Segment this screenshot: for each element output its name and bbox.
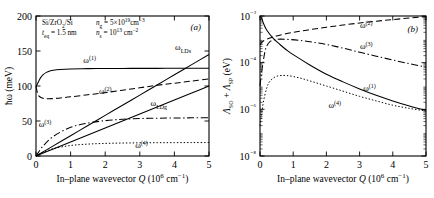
- x-tick-label: 2: [324, 159, 329, 170]
- x-tick-label: 5: [207, 159, 212, 170]
- y-tick-label: 50: [22, 116, 32, 127]
- y-tick-label: 10⁻²: [240, 10, 256, 22]
- y-tick-label: 100: [17, 81, 32, 92]
- panel-b-svg: 01234510⁻²10⁻⁴10⁻⁶10⁻⁸In–plane wavevecto…: [217, 0, 434, 198]
- plot-frame: [260, 16, 426, 156]
- x-axis-label: In–plane wavevector Q (106 cm−1): [277, 172, 409, 185]
- y-tick-label: 10⁻⁶: [240, 103, 257, 115]
- x-tick-label: 0: [258, 159, 263, 170]
- figure-container: 012345050100150200In–plane wavevector Q …: [0, 0, 434, 198]
- y-tick-label: 0: [27, 151, 32, 162]
- y-tick-label: 200: [17, 11, 32, 22]
- x-tick-label: 1: [68, 159, 73, 170]
- y-axis-label: ħω (meV): [4, 67, 15, 105]
- x-tick-label: 3: [137, 159, 142, 170]
- panel-b: 01234510⁻²10⁻⁴10⁻⁶10⁻⁸In–plane wavevecto…: [217, 0, 434, 198]
- x-tick-label: 4: [172, 159, 177, 170]
- y-tick-label: 150: [17, 46, 32, 57]
- x-tick-label: 3: [357, 159, 362, 170]
- x-tick-label: 4: [390, 159, 395, 170]
- x-tick-label: 5: [424, 159, 429, 170]
- panel-a: 012345050100150200In–plane wavevector Q …: [0, 0, 217, 198]
- x-axis-label: In–plane wavevector Q (106 cm−1): [57, 172, 189, 185]
- y-axis-label: ΛSO + ΛSP (eV): [222, 58, 234, 115]
- x-tick-label: 1: [291, 159, 296, 170]
- y-tick-label: 10⁻⁴: [240, 56, 257, 68]
- plot-frame: [36, 16, 209, 156]
- y-tick-label: 10⁻⁸: [240, 150, 257, 162]
- panel-b-id: (b): [408, 24, 419, 34]
- panel-a-id: (a): [191, 22, 202, 32]
- panel-a-svg: 012345050100150200In–plane wavevector Q …: [0, 0, 217, 198]
- x-tick-label: 0: [34, 159, 39, 170]
- x-tick-label: 2: [103, 159, 108, 170]
